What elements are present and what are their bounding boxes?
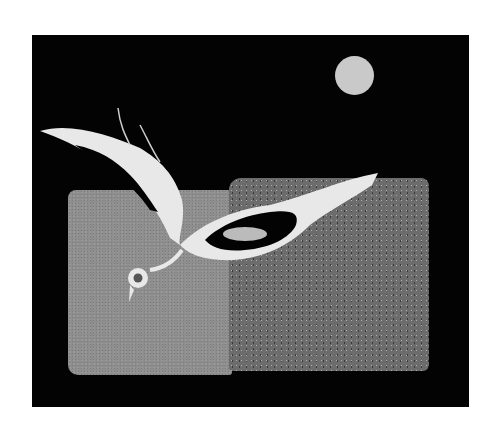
bird-figure bbox=[0, 0, 497, 445]
